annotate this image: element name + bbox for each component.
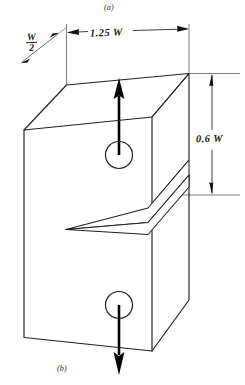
dimension-label-width: 1.25 W bbox=[90, 27, 123, 39]
arrowhead-right bbox=[177, 26, 189, 32]
caption-b: (b) bbox=[57, 364, 67, 373]
upper-force-arrowhead bbox=[114, 78, 125, 99]
dimension-label-depth: W 2 bbox=[26, 32, 38, 53]
dimension-label-height: 0.6 W bbox=[196, 133, 223, 144]
extension-tick bbox=[60, 28, 67, 33]
arrowhead-left bbox=[67, 29, 79, 35]
crack-notch bbox=[66, 160, 189, 235]
arrowhead-bottom bbox=[209, 182, 213, 194]
lower-loading-feature bbox=[106, 292, 133, 376]
dimension-label-depth-denominator: 2 bbox=[26, 43, 38, 53]
figure-page: (a) (b) 1.25 W 0.6 W W 2 bbox=[0, 0, 245, 385]
caption-a: (a) bbox=[104, 3, 114, 12]
crack-opening-upper-surface bbox=[66, 160, 189, 230]
isometric-block-drawing bbox=[0, 0, 245, 385]
arrowhead-top bbox=[209, 74, 213, 86]
lower-force-arrowhead bbox=[114, 352, 125, 375]
upper-loading-feature bbox=[106, 78, 133, 169]
